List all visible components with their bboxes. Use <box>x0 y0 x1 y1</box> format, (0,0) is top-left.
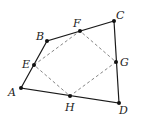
label-g: G <box>120 56 129 69</box>
point-a <box>19 86 23 90</box>
label-h: H <box>64 101 75 114</box>
label-c: C <box>116 9 125 22</box>
label-d: D <box>118 104 128 117</box>
label-b: B <box>35 30 44 43</box>
quadrilateral-diagram: A B C D E F G H <box>0 0 141 121</box>
label-e: E <box>21 58 30 71</box>
point-g <box>114 60 118 64</box>
point-e <box>32 63 36 67</box>
label-a: A <box>7 86 16 99</box>
label-f: F <box>72 17 81 30</box>
diagram-svg: A B C D E F G H <box>0 0 141 121</box>
point-h <box>68 94 72 98</box>
point-b <box>45 39 49 43</box>
